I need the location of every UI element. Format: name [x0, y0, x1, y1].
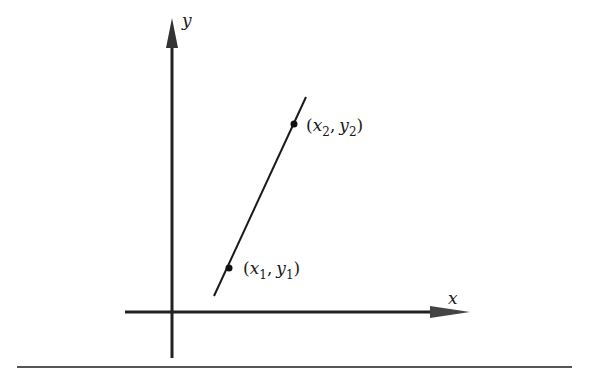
y-axis-label: y	[181, 10, 192, 30]
point-2-marker	[291, 121, 298, 128]
point-1-marker	[226, 265, 233, 272]
x-axis-label: x	[448, 288, 458, 308]
y-axis: y	[166, 10, 192, 358]
point-2-label: (x2,y2)	[306, 115, 363, 139]
cartesian-line-diagram: y x (x2,y2) (x1,y1)	[0, 0, 596, 387]
point-1: (x1,y1)	[226, 258, 301, 282]
point-1-label: (x1,y1)	[243, 258, 300, 282]
point-2: (x2,y2)	[291, 115, 364, 139]
x-axis: x	[125, 288, 470, 318]
y-axis-arrowhead-icon	[166, 18, 178, 48]
